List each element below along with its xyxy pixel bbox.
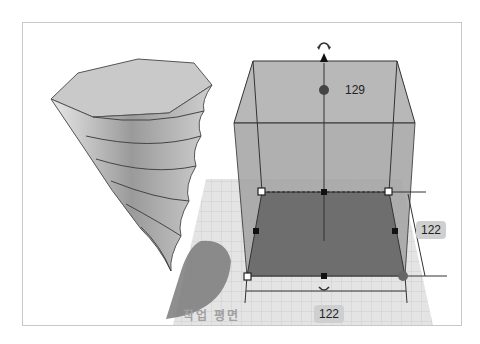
depth-dimension-label[interactable]: 122 [416, 221, 446, 239]
3d-viewport[interactable]: 129 122 122 작업 평면 [22, 22, 462, 326]
height-value[interactable]: 129 [345, 83, 365, 97]
cone-handle-icon[interactable] [320, 53, 328, 62]
corner-handle-back-right [385, 188, 392, 195]
width-dimension-label[interactable]: 122 [314, 305, 344, 323]
corner-handle-front-right [398, 271, 408, 281]
scene [23, 23, 461, 325]
corner-handle-back-left [258, 188, 265, 195]
corner-handle-front-left [244, 273, 251, 280]
workplane-label: 작업 평면 [183, 306, 240, 323]
rotate-arrows-icon[interactable] [317, 43, 331, 50]
twisted-polygon-shape[interactable] [51, 59, 212, 271]
height-handle [319, 85, 329, 95]
